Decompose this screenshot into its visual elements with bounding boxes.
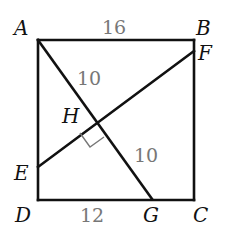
point-label-d: D bbox=[14, 203, 31, 227]
length-label-hg: 10 bbox=[134, 144, 158, 166]
point-label-f: F bbox=[197, 41, 213, 65]
length-label-ab: 16 bbox=[102, 16, 126, 38]
length-label-dg: 12 bbox=[80, 204, 104, 226]
segment-AG bbox=[38, 40, 152, 199]
point-label-a: A bbox=[12, 16, 28, 40]
point-label-h: H bbox=[61, 104, 80, 128]
length-label-ah: 10 bbox=[77, 67, 101, 89]
geometry-diagram: A B C D E F G H 16 10 10 12 bbox=[0, 0, 227, 233]
right-angle-marker bbox=[80, 133, 104, 147]
point-label-b: B bbox=[195, 16, 211, 40]
point-label-g: G bbox=[143, 203, 159, 227]
point-label-c: C bbox=[193, 203, 208, 227]
point-label-e: E bbox=[13, 161, 29, 185]
